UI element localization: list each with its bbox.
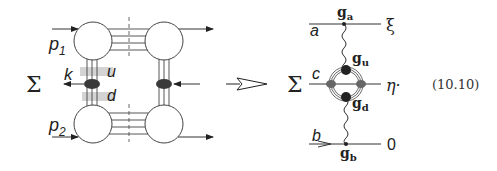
wavy-line-lower xyxy=(344,98,348,144)
label-b: b xyxy=(312,127,321,144)
label-u: u xyxy=(107,63,116,80)
vertex-right xyxy=(156,79,172,89)
vertex-loop-right xyxy=(356,80,366,88)
label-a: a xyxy=(310,22,319,39)
label-c: c xyxy=(312,65,320,82)
blob-bottom-right xyxy=(145,105,183,143)
left-diagram: Σ p1 p2 k u d xyxy=(26,17,213,143)
label-p2: p2 xyxy=(48,115,66,139)
label-ga: ga xyxy=(337,4,354,22)
bottom-rungs xyxy=(108,113,150,134)
wavy-line-upper xyxy=(342,24,346,70)
label-k: k xyxy=(64,65,74,84)
label-gu: gu xyxy=(352,50,369,68)
equation-number: (10.10) xyxy=(432,77,479,92)
right-diagram: Σ a c b ξ η· 0 ga gu gd gb xyxy=(287,4,401,163)
vertex-gd xyxy=(341,92,351,102)
vertex-left xyxy=(84,79,100,89)
label-eta: η· xyxy=(386,76,401,95)
label-gd: gd xyxy=(352,95,369,113)
sum-symbol-left: Σ xyxy=(26,72,42,97)
blob-bottom-left xyxy=(74,105,112,143)
vertex-loop-left xyxy=(326,80,336,88)
diagram-canvas: Σ p1 p2 k u d Σ a c b ξ xyxy=(0,0,497,171)
label-zero: 0 xyxy=(387,136,396,153)
implies-arrow xyxy=(226,78,267,90)
vertex-ga xyxy=(342,22,346,26)
label-d: d xyxy=(107,87,117,104)
vertex-gu xyxy=(341,65,351,75)
label-p1: p1 xyxy=(48,34,66,58)
sum-symbol-right: Σ xyxy=(287,72,303,97)
blob-top-left xyxy=(74,22,112,60)
blob-top-right xyxy=(145,22,183,60)
label-xi: ξ xyxy=(386,16,395,35)
label-gb: gb xyxy=(340,145,357,163)
